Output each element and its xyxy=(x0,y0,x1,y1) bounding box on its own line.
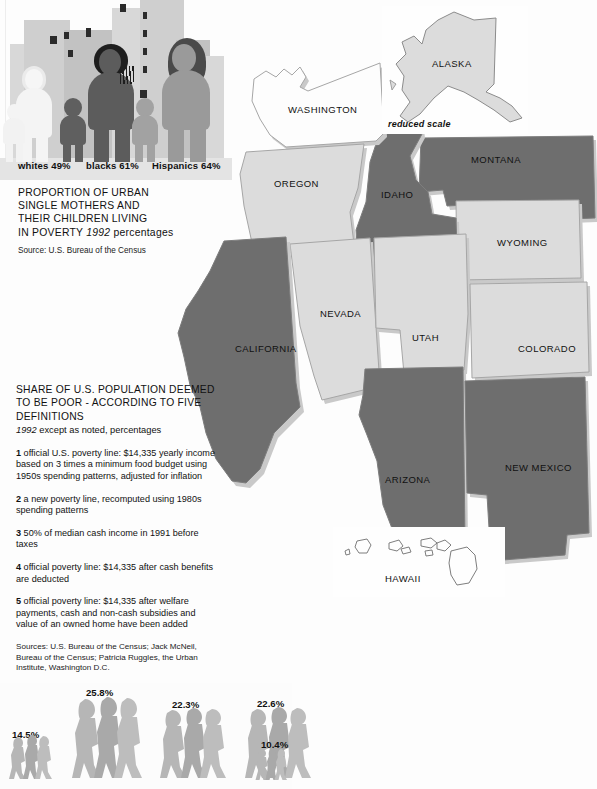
definition-3: 3 50% of median cash income in 1991 befo… xyxy=(16,528,216,551)
figure-child-whites xyxy=(2,104,28,162)
urban-title-line-3: THEIR CHILDREN LIVING xyxy=(18,212,218,225)
window xyxy=(64,32,69,39)
definition-5-number: 5 xyxy=(16,596,21,606)
alaska-inset-panel[interactable]: ALASKA reduced scale xyxy=(382,6,528,134)
window xyxy=(120,4,126,12)
definition-2: 2 a new poverty line, recomputed using 1… xyxy=(16,494,216,517)
figure-child-hispanics xyxy=(130,98,160,162)
definition-5: 5 official poverty line: $14,335 after w… xyxy=(16,596,216,631)
window xyxy=(143,66,147,73)
hawaii-shape xyxy=(333,527,505,597)
label-blacks: blacks 61% xyxy=(86,160,139,171)
label-whites: whites 49% xyxy=(18,160,71,171)
urban-title-line-4: IN POVERTY 1992 percentages xyxy=(18,226,218,239)
window xyxy=(68,50,73,57)
share-heading-line-1: SHARE OF U.S. POPULATION DEEMED xyxy=(16,383,216,396)
figure-child-blacks xyxy=(58,98,88,162)
state-label-new-mexico: NEW MEXICO xyxy=(505,462,565,473)
state-label-montana: MONTANA xyxy=(471,154,521,165)
urban-title-line-1: PROPORTION OF URBAN xyxy=(18,186,218,199)
definition-3-number: 3 xyxy=(16,528,21,538)
state-label-wyoming: WYOMING xyxy=(497,237,548,248)
share-of-population-block: SHARE OF U.S. POPULATION DEEMED TO BE PO… xyxy=(16,383,216,674)
state-label-washington: WASHINGTON xyxy=(288,104,357,115)
state-label-colorado: COLORADO xyxy=(518,343,576,354)
urban-title-percentages: percentages xyxy=(110,227,173,238)
hawaii-inset-panel[interactable]: HAWAII xyxy=(333,527,505,597)
alaska-scale-caption: reduced scale xyxy=(388,119,451,129)
definition-1: 1 official U.S. poverty line: $14,335 ye… xyxy=(16,448,216,483)
share-subheading-year: 1992 xyxy=(16,425,37,435)
urban-title-line-2: SINGLE MOTHERS AND xyxy=(18,199,218,212)
alaska-shape xyxy=(382,6,528,134)
share-subheading-rest: except as noted, percentages xyxy=(37,425,162,435)
definition-2-number: 2 xyxy=(16,494,21,504)
state-label-oregon: OREGON xyxy=(274,178,319,189)
state-label-alaska: ALASKA xyxy=(432,58,472,69)
window xyxy=(50,36,57,44)
window xyxy=(143,30,147,37)
definition-5-text: official poverty line: $14,335 after wel… xyxy=(16,596,195,629)
urban-percent-labels: whites 49% blacks 61% Hispanics 64% xyxy=(0,160,232,176)
window xyxy=(143,12,147,19)
walker-figure xyxy=(34,736,56,781)
share-heading-line-3: DEFINITIONS xyxy=(16,410,216,423)
state-colorado[interactable] xyxy=(467,280,592,390)
poverty-definitions-pictogram-chart: 14.5% 25.8% 22.3% xyxy=(0,683,300,789)
urban-single-mothers-illustration: whites 49% blacks 61% Hispanics 64% xyxy=(0,0,232,180)
window xyxy=(143,48,147,55)
state-utah[interactable] xyxy=(370,232,480,384)
definition-3-text: 50% of median cash income in 1991 before… xyxy=(16,528,199,550)
walker-figure xyxy=(112,698,148,781)
definition-4-number: 4 xyxy=(16,562,21,572)
window xyxy=(140,90,147,98)
urban-caption-block: PROPORTION OF URBAN SINGLE MOTHERS AND T… xyxy=(18,186,218,256)
urban-title-year: 1992 xyxy=(86,227,110,238)
definition-4: 4 official poverty line: $14,335 after c… xyxy=(16,562,216,585)
state-label-california: CALIFORNIA xyxy=(235,343,297,354)
definition-2-text: a new poverty line, recomputed using 198… xyxy=(16,494,202,516)
share-sources: Sources: U.S. Bureau of the Census; Jack… xyxy=(16,642,216,674)
share-subheading: 1992 except as noted, percentages xyxy=(16,424,216,437)
state-label-hawaii: HAWAII xyxy=(385,573,421,584)
urban-title-in-poverty: IN POVERTY xyxy=(18,227,86,238)
urban-source: Source: U.S. Bureau of the Census xyxy=(18,245,218,256)
definition-1-number: 1 xyxy=(16,448,21,458)
state-label-utah: UTAH xyxy=(412,332,439,343)
walker-figure xyxy=(274,749,290,781)
share-heading-line-2: TO BE POOR - ACCORDING TO FIVE xyxy=(16,396,216,409)
state-label-idaho: IDAHO xyxy=(381,189,413,200)
window xyxy=(86,28,91,37)
definition-4-text: official poverty line: $14,335 after cas… xyxy=(16,562,213,584)
definition-1-text: official U.S. poverty line: $14,335 year… xyxy=(16,448,215,481)
figure-mother-hispanics xyxy=(160,38,216,162)
state-label-arizona: ARIZONA xyxy=(385,474,430,485)
label-hispanics: Hispanics 64% xyxy=(152,160,220,171)
walker-figure xyxy=(198,709,232,781)
